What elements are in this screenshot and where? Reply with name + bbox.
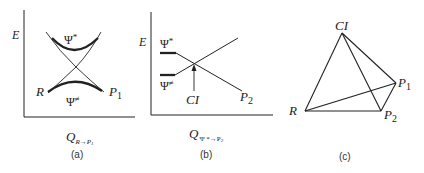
- upper-state-label: Ψ*: [64, 32, 78, 47]
- lower-state-label: Ψ≠: [66, 94, 80, 109]
- lower-state-line: [175, 38, 238, 75]
- figure: E Ψ* Ψ≠ R P1 QR→P1 (a) E Ψ* Ψ≠ CI P2 QΨ …: [0, 0, 424, 173]
- x-axis-label: QR→P1: [66, 129, 93, 146]
- upper-state-label: Ψ*: [160, 36, 174, 51]
- point-P2: P2: [239, 89, 253, 106]
- point-R: R: [35, 84, 44, 99]
- vertex-P2: P2: [383, 107, 397, 124]
- panel-c: CI R P1 P2 (c): [288, 18, 411, 162]
- vertex-CI: CI: [335, 18, 349, 33]
- caption-c: (c): [339, 151, 351, 162]
- lower-state-label: Ψ≠: [160, 78, 174, 93]
- panel-a: E Ψ* Ψ≠ R P1 QR→P1 (a): [11, 10, 135, 160]
- point-P1: P1: [108, 84, 122, 101]
- edge-CI-P2: [342, 33, 381, 111]
- edge-R-P1: [305, 83, 396, 111]
- vertex-R: R: [288, 103, 297, 118]
- y-axis-label: E: [138, 35, 147, 49]
- y-axis-label: E: [11, 28, 20, 42]
- caption-a: (a): [71, 149, 83, 160]
- panel-b: E Ψ* Ψ≠ CI P2 QΨ *→P2 (b): [138, 12, 273, 160]
- edge-CI-P1: [342, 33, 396, 83]
- caption-b: (b): [200, 149, 212, 160]
- ci-label: CI: [186, 92, 200, 107]
- upper-state-line: [176, 53, 242, 91]
- vertex-P1: P1: [397, 75, 411, 92]
- x-axis-label: QΨ *→P2: [189, 126, 224, 143]
- edge-CI-R: [305, 33, 342, 111]
